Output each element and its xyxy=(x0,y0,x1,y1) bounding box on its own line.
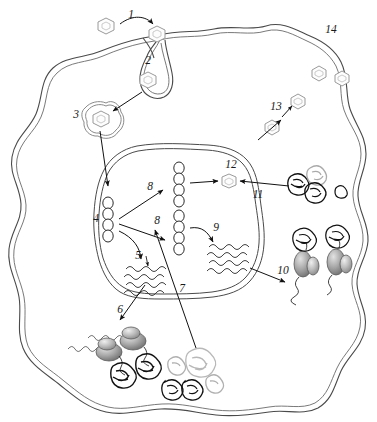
label-10: 10 xyxy=(277,264,289,276)
virion-crossing-membrane xyxy=(291,94,305,109)
virion-group xyxy=(93,18,349,188)
capsid-protein-dark-c xyxy=(305,183,326,203)
nascent-protein-d xyxy=(326,225,350,248)
label-6: 6 xyxy=(117,303,123,315)
endocytic-pit xyxy=(140,35,173,98)
virion-free-extracellular xyxy=(98,18,114,34)
nascent-protein-c xyxy=(293,228,317,251)
label-14: 14 xyxy=(325,23,337,35)
ribosome-translation-complex xyxy=(68,327,149,375)
virion-in-endosome xyxy=(93,111,109,127)
arrow-2-to-3-uncoating xyxy=(113,92,142,111)
chromatin-chains xyxy=(103,162,184,255)
label-8-upper: 8 xyxy=(147,180,153,192)
chromatin-progeny-lower xyxy=(174,210,184,255)
label-12: 12 xyxy=(225,158,237,170)
chromatin-template-4 xyxy=(103,197,113,242)
label-9: 9 xyxy=(213,221,219,233)
folded-protein-a xyxy=(111,363,137,388)
misfolded-protein-gray-b xyxy=(186,348,216,377)
mrna-cluster-5 xyxy=(124,267,166,296)
capsid-protein-dark-d xyxy=(335,186,347,198)
label-13: 13 xyxy=(270,100,282,112)
arrow-9-rna-synthesis xyxy=(190,228,213,242)
label-2: 2 xyxy=(145,54,151,66)
virion-in-pit xyxy=(140,72,156,88)
degraded-protein-gray xyxy=(206,375,224,393)
arrow-5-tip xyxy=(146,256,148,266)
viral-rna-cluster-9 xyxy=(207,245,249,274)
label-3: 3 xyxy=(72,108,79,120)
label-4: 4 xyxy=(93,212,99,224)
ribosome-b xyxy=(120,327,146,350)
arrow-13-tip xyxy=(282,106,292,117)
label-8-lower: 8 xyxy=(154,214,160,226)
ribosome-a xyxy=(96,338,122,361)
folded-protein-b xyxy=(136,354,162,379)
label-7: 7 xyxy=(179,282,186,294)
ribosome-c xyxy=(294,251,319,277)
virion-released-14b xyxy=(335,71,349,86)
arrow-6-mrna-export xyxy=(120,285,145,320)
chromatin-progeny-upper xyxy=(174,162,184,207)
cell-membrane xyxy=(9,25,368,416)
virion-nucleocapsid-12 xyxy=(222,174,236,188)
viral-replication-diagram: 1 2 3 4 5 6 7 8 8 9 10 11 12 13 14 xyxy=(0,0,377,422)
label-5: 5 xyxy=(135,249,141,261)
arrow-assembly-to-12 xyxy=(190,181,218,183)
virion-released-14a xyxy=(312,66,326,81)
capsid-protein-gray-b xyxy=(307,166,327,185)
arrow-11-capsid-import xyxy=(240,181,289,186)
capsid-protein-dark-a xyxy=(288,174,309,195)
arrow-1-attachment xyxy=(120,17,153,24)
ribosome-d xyxy=(327,249,352,275)
label-1: 1 xyxy=(128,8,134,20)
virion-bound-membrane xyxy=(149,26,165,42)
degraded-protein-b xyxy=(182,380,203,400)
degraded-protein-a xyxy=(162,380,183,400)
misfolded-protein-gray-a xyxy=(168,357,186,375)
label-11: 11 xyxy=(253,188,264,200)
arrow-3-to-nucleus xyxy=(100,131,108,186)
